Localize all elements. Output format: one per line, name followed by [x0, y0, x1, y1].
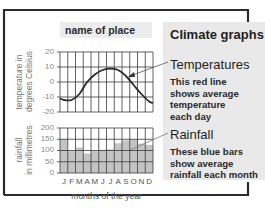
rainfall-bar: [122, 140, 130, 173]
rainfall-bar: [114, 143, 122, 173]
rainfall-bar: [83, 153, 91, 173]
rainfall-bar: [138, 144, 146, 173]
month-labels: JFM AMJ JAS OND: [60, 177, 153, 186]
rainfall-bar: [107, 149, 115, 173]
rainfall-bar: [60, 139, 68, 173]
x-axis-label: months of the year: [60, 191, 153, 201]
temperature-pointer: [130, 62, 168, 76]
rainfall-bar: [76, 148, 84, 173]
rainfall-bar: [145, 145, 153, 173]
rainfall-bar: [130, 139, 138, 173]
